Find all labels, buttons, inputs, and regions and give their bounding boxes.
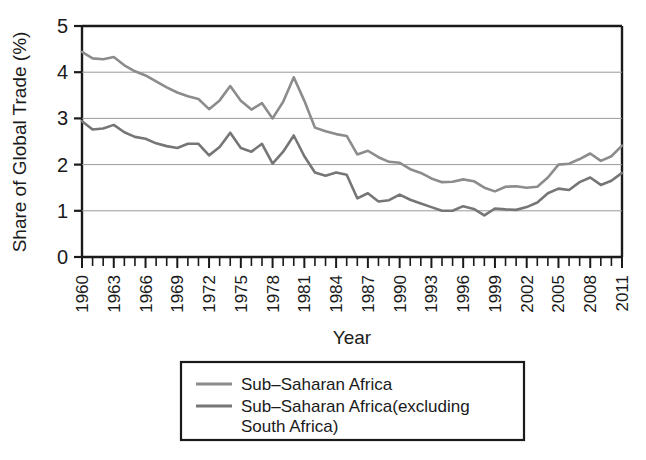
y-axis-ticks: 012345 — [57, 15, 82, 268]
chart-figure: Share of Global Trade (%) 012345 1960196… — [0, 0, 646, 460]
legend-label-3: South Africa) — [241, 417, 338, 436]
legend-label-1: Sub–Saharan Africa — [241, 375, 393, 394]
x-tick-label: 1990 — [391, 275, 410, 313]
x-tick-label: 1969 — [168, 275, 187, 313]
plot-frame — [82, 26, 622, 257]
x-axis-tick-labels: 1960196319661969197219751978198119841987… — [73, 275, 632, 313]
x-tick-label: 1975 — [232, 275, 251, 313]
x-tick-label: 1972 — [200, 275, 219, 313]
x-tick-label: 2002 — [518, 275, 537, 313]
x-tick-label: 1963 — [105, 275, 124, 313]
x-tick-label: 1960 — [73, 275, 92, 313]
x-tick-label: 2005 — [549, 275, 568, 313]
y-tick-label: 4 — [57, 61, 68, 83]
y-tick-label: 5 — [57, 15, 68, 37]
x-tick-label: 1996 — [454, 275, 473, 313]
y-axis-title: Share of Global Trade (%) — [9, 32, 30, 253]
series-line-2 — [82, 121, 622, 215]
gridlines — [82, 72, 622, 211]
x-tick-label: 1987 — [359, 275, 378, 313]
y-tick-label: 2 — [57, 154, 68, 176]
legend: Sub–Saharan Africa Sub–Saharan Africa(ex… — [181, 362, 524, 440]
y-tick-label: 0 — [57, 246, 68, 268]
series-lines — [82, 52, 622, 216]
line-chart-svg: Share of Global Trade (%) 012345 1960196… — [0, 0, 646, 460]
x-tick-label: 1993 — [422, 275, 441, 313]
x-axis-title: Year — [333, 327, 372, 348]
x-tick-label: 2008 — [581, 275, 600, 313]
legend-label-2: Sub–Saharan Africa(excluding — [241, 397, 470, 416]
x-tick-label: 2011 — [613, 275, 632, 312]
x-tick-label: 1978 — [264, 275, 283, 313]
x-tick-label: 1981 — [295, 275, 314, 313]
x-axis-minor-ticks — [82, 257, 622, 268]
y-axis-title-group: Share of Global Trade (%) — [9, 32, 30, 253]
x-tick-label: 1999 — [486, 275, 505, 313]
y-tick-label: 1 — [57, 200, 68, 222]
series-line-1 — [82, 52, 622, 192]
x-tick-label: 1966 — [137, 275, 156, 313]
x-tick-label: 1984 — [327, 275, 346, 313]
y-tick-label: 3 — [57, 107, 68, 129]
